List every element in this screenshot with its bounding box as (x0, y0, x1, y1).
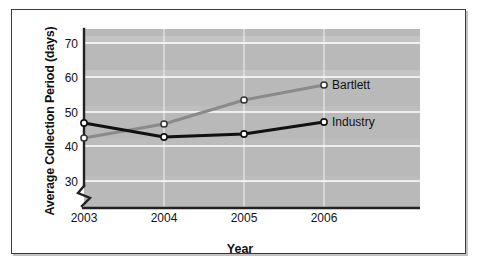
y-tick-label-40: 40 (52, 140, 78, 154)
x-tick-label-2006: 2006 (302, 211, 346, 225)
series-bartlett-point-2005 (241, 97, 247, 103)
y-tick-label-70: 70 (52, 37, 78, 51)
series-industry-point-2003 (81, 120, 87, 126)
series-industry-point-2006 (321, 119, 327, 125)
series-bartlett-point-2006 (321, 82, 327, 88)
series-bartlett-point-2004 (161, 121, 167, 127)
series-bartlett-point-2003 (81, 135, 87, 141)
y-tick-label-50: 50 (52, 106, 78, 120)
series-label-industry: Industry (332, 115, 375, 129)
figure-container: Average Collection Period (days) 30 40 5… (0, 0, 478, 271)
x-tick-label-2005: 2005 (222, 211, 266, 225)
x-axis-title: Year (192, 242, 288, 256)
series-industry-point-2005 (241, 131, 247, 137)
series-industry-point-2004 (161, 134, 167, 140)
y-axis-title: Average Collection Period (days) (43, 21, 57, 221)
y-tick-label-60: 60 (52, 71, 78, 85)
chart-frame: Average Collection Period (days) 30 40 5… (11, 9, 466, 254)
x-tick-label-2003: 2003 (62, 211, 106, 225)
series-label-bartlett: Bartlett (332, 78, 370, 92)
y-tick-label-30: 30 (52, 175, 78, 189)
x-tick-label-2004: 2004 (142, 211, 186, 225)
